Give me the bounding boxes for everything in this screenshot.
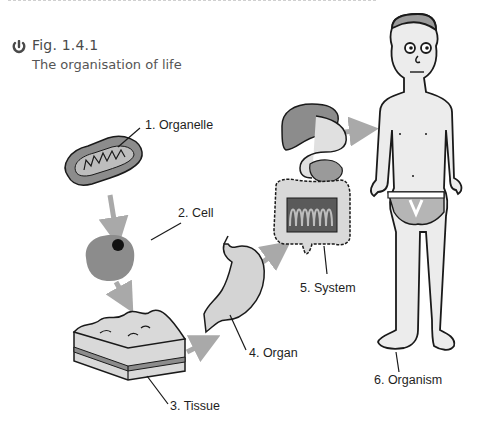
organisation-of-life-illustration — [0, 0, 487, 429]
label-cell: 2. Cell — [178, 206, 213, 220]
arrow-organ-to-system — [263, 250, 279, 262]
label-system: 5. System — [300, 281, 356, 295]
digestive-system-illustration — [274, 104, 350, 274]
tissue-block-illustration — [74, 310, 185, 404]
arrow-cell-to-tissue — [116, 282, 126, 300]
human-illustration — [371, 14, 462, 372]
label-tissue: 3. Tissue — [170, 399, 220, 413]
label-organ: 4. Organ — [249, 346, 298, 360]
arrow-system-to-organism — [345, 130, 364, 132]
arrow-tissue-to-organ — [187, 342, 207, 352]
label-organelle: 1. Organelle — [145, 118, 213, 132]
stomach-illustration — [204, 236, 264, 350]
cell-illustration — [86, 223, 181, 281]
mitochondrion-illustration — [65, 128, 142, 185]
arrow-organelle-to-cell — [110, 195, 116, 232]
label-organism: 6. Organism — [374, 373, 442, 387]
